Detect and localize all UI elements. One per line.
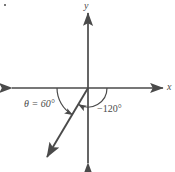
directed-angle-label: −120° xyxy=(97,104,122,114)
reference-angle-arc xyxy=(57,88,73,115)
x-axis-label: x xyxy=(167,82,171,92)
corner-artifact-dot xyxy=(4,4,6,6)
y-axis-label: y xyxy=(84,1,88,11)
angle-diagram xyxy=(0,0,175,172)
reference-angle-label: θ = 60° xyxy=(24,99,55,109)
